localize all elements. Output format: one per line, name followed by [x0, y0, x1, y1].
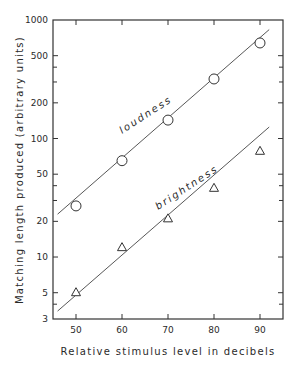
chart: 100050020010050201053 5060708090 loudnes… [0, 0, 297, 367]
x-tick-label: 70 [162, 325, 174, 335]
circle-marker [71, 201, 81, 211]
loudness-series-label: loudness [117, 94, 174, 136]
triangle-marker [72, 288, 81, 296]
circle-marker [255, 38, 265, 48]
data-markers [71, 38, 265, 296]
y-tick-label: 500 [31, 51, 48, 61]
circle-marker [209, 74, 219, 84]
y-tick-label: 200 [31, 98, 48, 108]
y-tick-label: 3 [42, 314, 48, 324]
brightness-fit-line [58, 127, 270, 311]
y-tick-label: 1000 [25, 15, 48, 25]
y-tick-label: 100 [31, 134, 48, 144]
x-tick-label: 90 [254, 325, 266, 335]
y-tick-label: 5 [42, 288, 48, 298]
triangle-marker [118, 243, 127, 251]
y-axis-ticks: 100050020010050201053 [25, 15, 283, 324]
brightness-series-label: brightness [153, 163, 220, 212]
y-tick-label: 10 [37, 252, 49, 262]
y-tick-label: 50 [37, 169, 49, 179]
x-axis-label: Relative stimulus level in decibels [60, 346, 275, 357]
plot-frame [53, 20, 283, 319]
circle-marker [117, 156, 127, 166]
y-axis-label: Matching length produced (arbitrary unit… [14, 36, 25, 304]
triangle-marker [256, 146, 265, 154]
x-tick-label: 60 [116, 325, 128, 335]
x-tick-label: 50 [70, 325, 82, 335]
y-tick-label: 20 [37, 216, 49, 226]
circle-marker [163, 115, 173, 125]
triangle-marker [210, 183, 219, 191]
fit-lines [58, 30, 270, 311]
x-tick-label: 80 [208, 325, 220, 335]
